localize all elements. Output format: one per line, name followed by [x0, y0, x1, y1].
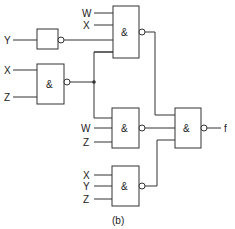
- junction-dot: [92, 80, 96, 84]
- input-label: W: [81, 123, 91, 134]
- output-label: f: [224, 123, 227, 134]
- gate-symbol: &: [121, 27, 128, 38]
- gate-symbol: &: [46, 79, 53, 90]
- gate-symbol: &: [121, 181, 128, 192]
- input-label: Z: [83, 194, 89, 205]
- nand-gate-output: [175, 108, 221, 148]
- input-label: W: [82, 8, 92, 19]
- nand-gate-2: [13, 52, 113, 118]
- logic-diagram: Y W X & X Z & W Z & & f: [0, 0, 235, 229]
- input-label: Y: [4, 35, 11, 46]
- nand-gate-4: [94, 140, 175, 206]
- gate-symbol: &: [121, 123, 128, 134]
- figure-caption: (b): [112, 215, 124, 226]
- input-label: X: [4, 65, 11, 76]
- input-label: Y: [83, 181, 90, 192]
- nand-gate-3: [94, 108, 175, 148]
- inverter-y: [13, 29, 113, 49]
- input-label: Z: [4, 92, 10, 103]
- input-label: Z: [83, 137, 89, 148]
- input-label: X: [83, 170, 90, 181]
- gate-symbol: &: [183, 123, 190, 134]
- nand-gate-1: [94, 6, 175, 115]
- input-label: X: [83, 20, 90, 31]
